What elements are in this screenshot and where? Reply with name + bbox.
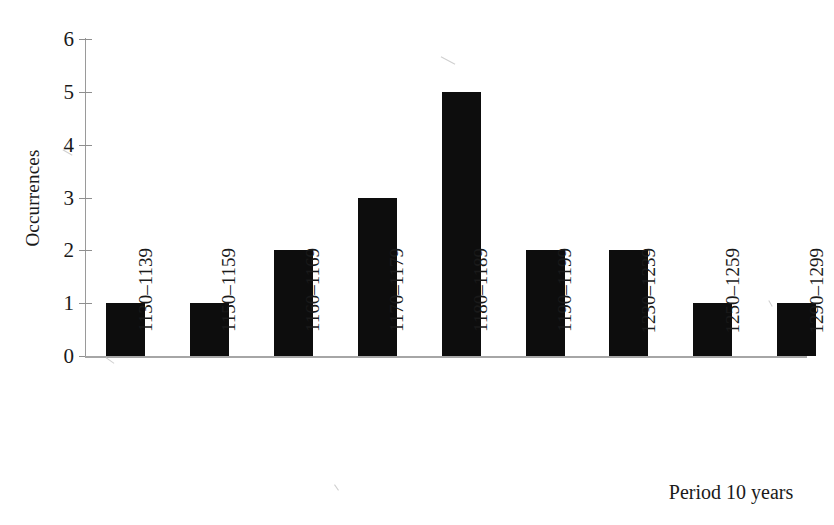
bars-layer xyxy=(0,0,834,525)
x-axis-title: Period 10 years xyxy=(636,481,826,504)
x-axis-tick-label: 1160–1169 xyxy=(303,248,323,368)
x-axis-tick-label: 1130–1139 xyxy=(136,248,156,368)
x-axis-tick-label: 1190–1199 xyxy=(555,248,575,368)
x-axis-tick-label: 1230–1239 xyxy=(639,248,659,368)
x-axis-tick-label: 1150–1159 xyxy=(219,248,239,368)
bar-chart: Occurrences 0123456 1130–11391150–115911… xyxy=(0,0,834,525)
x-axis-tick-label: 1180–1189 xyxy=(471,248,491,368)
x-axis-tick-label: 1250–1259 xyxy=(723,248,743,368)
x-axis-tick-label: 1290–1299 xyxy=(807,248,827,368)
x-axis-tick-label: 1170–1179 xyxy=(387,248,407,368)
